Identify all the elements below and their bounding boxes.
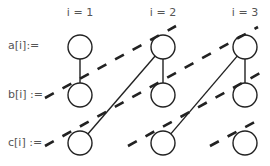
node-c1 [68,131,92,155]
column-header-i1: i = 1 [67,7,93,19]
node-b2 [151,83,175,107]
node-c3 [233,131,257,155]
dependence-edge [171,56,237,134]
row-label-a: a[i]:= [8,40,39,52]
row-label-c: c[i] := [8,137,42,149]
dashed-wavefront-line [210,118,262,146]
column-header-i3: i = 3 [232,7,258,19]
node-a2 [151,35,175,59]
dependence-diagram: i = 1 i = 2 i = 3 a[i]:= b[i] := c[i] := [0,0,270,166]
node-c2 [151,131,175,155]
node-a1 [68,35,92,59]
row-label-b: b[i] := [8,89,43,101]
node-b1 [68,83,92,107]
node-a3 [233,35,257,59]
node-b3 [233,83,257,107]
column-header-i2: i = 2 [150,7,176,19]
